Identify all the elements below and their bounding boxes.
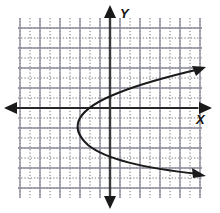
curve-lower-end-arrow <box>192 168 206 178</box>
x-axis-left-arrow <box>4 102 17 114</box>
coordinate-plane-svg <box>0 0 220 213</box>
x-axis <box>4 102 212 114</box>
x-axis-label: X <box>196 113 205 126</box>
curve-upper-end-arrow <box>192 66 206 76</box>
y-axis-down-arrow <box>104 196 116 209</box>
graph-figure: Y X <box>0 0 220 213</box>
y-axis-up-arrow <box>104 5 116 18</box>
y-axis-label: Y <box>120 7 129 20</box>
